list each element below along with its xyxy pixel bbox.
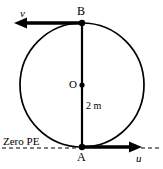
velocity-v-label: v xyxy=(20,8,25,19)
point-a-label: A xyxy=(77,151,86,163)
velocity-u-arrowhead xyxy=(129,142,142,153)
physics-diagram-vertical-circle: v u B A O 2 m Zero PE xyxy=(0,0,163,169)
zero-pe-label: Zero PE xyxy=(3,136,39,147)
diameter-measure-label: 2 m xyxy=(86,101,101,111)
velocity-u-label: u xyxy=(136,153,142,164)
point-b-label: B xyxy=(77,5,85,17)
center-point-dot xyxy=(79,82,84,87)
velocity-v-arrowhead xyxy=(14,18,27,29)
center-o-label: O xyxy=(69,79,77,90)
